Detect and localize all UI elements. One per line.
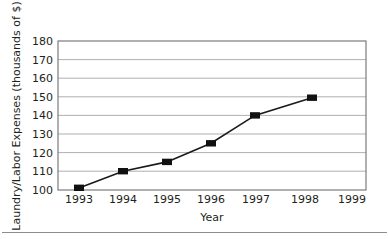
y-tick-label-140: 140: [32, 109, 53, 122]
data-point-1996: [206, 140, 216, 146]
y-tick-label-120: 120: [32, 147, 53, 160]
x-tick-label-1993: 1993: [65, 193, 93, 206]
x-axis-tick-labels: 1993 1994 1995 1996 1997 1998 1999: [65, 193, 366, 206]
data-point-1998: [307, 95, 317, 101]
y-tick-label-110: 110: [32, 165, 53, 178]
y-tick-label-160: 160: [32, 72, 53, 85]
y-tick-label-150: 150: [32, 91, 53, 104]
data-point-1994: [118, 168, 128, 174]
footer-divider: [2, 232, 387, 233]
y-tick-label-170: 170: [32, 54, 53, 67]
y-axis-tick-labels: 180 170 160 150 140 130 120 110 100: [32, 35, 53, 197]
x-tick-label-1998: 1998: [291, 193, 319, 206]
y-tick-label-130: 130: [32, 128, 53, 141]
line-chart: 180 170 160 150 140 130 120 110 100 1993…: [0, 0, 389, 239]
data-point-1997: [250, 112, 260, 118]
x-tick-label-1994: 1994: [109, 193, 137, 206]
x-tick-label-1997: 1997: [242, 193, 270, 206]
data-point-1995: [162, 159, 172, 165]
data-point-1993: [74, 185, 84, 191]
x-axis-title: Year: [199, 211, 224, 224]
y-tick-label-100: 100: [32, 184, 53, 197]
x-tick-label-1996: 1996: [197, 193, 225, 206]
chart-figure: 180 170 160 150 140 130 120 110 100 1993…: [0, 0, 389, 239]
x-tick-label-1999: 1999: [338, 193, 366, 206]
y-tick-label-180: 180: [32, 35, 53, 48]
y-axis-title: Laundry/Labor Expenses (thousands of $): [10, 1, 23, 230]
x-tick-label-1995: 1995: [153, 193, 181, 206]
